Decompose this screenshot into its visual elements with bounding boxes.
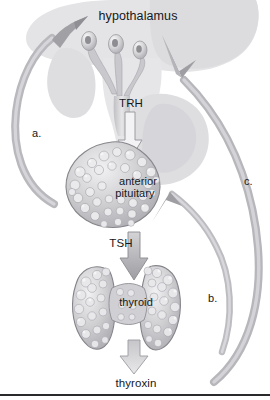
label-anterior-pituitary-line1: anterior xyxy=(119,175,157,187)
label-hypothalamus: hypothalamus xyxy=(0,10,270,23)
label-feedback-c: c. xyxy=(244,176,253,188)
thyroid-axis-diagram: hypothalamus TRH anteriorpituitary TSH t… xyxy=(0,0,270,400)
label-thyroxin: thyroxin xyxy=(0,377,270,389)
thyroxin-arrow-layer xyxy=(0,0,270,400)
bottom-divider xyxy=(0,394,270,396)
label-feedback-a: a. xyxy=(32,128,41,140)
label-anterior-pituitary: anteriorpituitary xyxy=(0,176,270,199)
label-anterior-pituitary-line2: pituitary xyxy=(115,187,154,199)
label-trh: TRH xyxy=(0,97,270,109)
thyroxin-arrow xyxy=(120,340,148,374)
label-feedback-b: b. xyxy=(208,293,217,305)
label-tsh: TSH xyxy=(0,237,270,249)
label-thyroid: thyroid xyxy=(0,297,270,309)
